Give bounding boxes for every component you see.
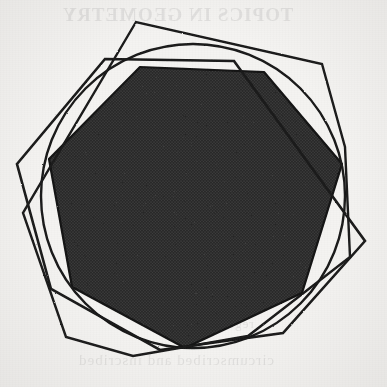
geometry-figure-container: TOPICS IN GEOMETRY regular polygons circ… (0, 0, 387, 387)
geometry-diagram-svg (0, 0, 387, 387)
